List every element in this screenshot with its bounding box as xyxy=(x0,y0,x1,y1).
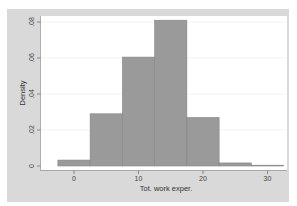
histogram-bar xyxy=(122,57,154,166)
histogram-bars xyxy=(58,20,284,166)
histogram-chart: 0.02.04.06.08 0102030 Density Tot. work … xyxy=(0,0,297,206)
y-tick-label: .06 xyxy=(28,53,35,63)
x-tick-label: 30 xyxy=(264,175,272,182)
y-axis-title: Density xyxy=(18,80,27,105)
histogram-bar xyxy=(58,160,90,166)
x-tick-label: 10 xyxy=(135,175,143,182)
x-axis: 0102030 xyxy=(40,171,287,183)
y-tick-label: 0 xyxy=(28,164,35,168)
y-tick-label: .04 xyxy=(28,89,35,99)
histogram-bar xyxy=(187,117,219,166)
histogram-bar xyxy=(90,114,122,166)
x-tick-label: 20 xyxy=(199,175,207,182)
y-axis: 0.02.04.06.08 xyxy=(28,16,41,170)
x-axis-title: Tot. work exper. xyxy=(140,184,193,193)
histogram-bar xyxy=(251,165,283,166)
histogram-bar xyxy=(219,163,251,166)
x-tick-label: 0 xyxy=(72,175,76,182)
y-tick-label: .08 xyxy=(28,17,35,27)
histogram-bar xyxy=(155,20,187,166)
y-tick-label: .02 xyxy=(28,125,35,135)
